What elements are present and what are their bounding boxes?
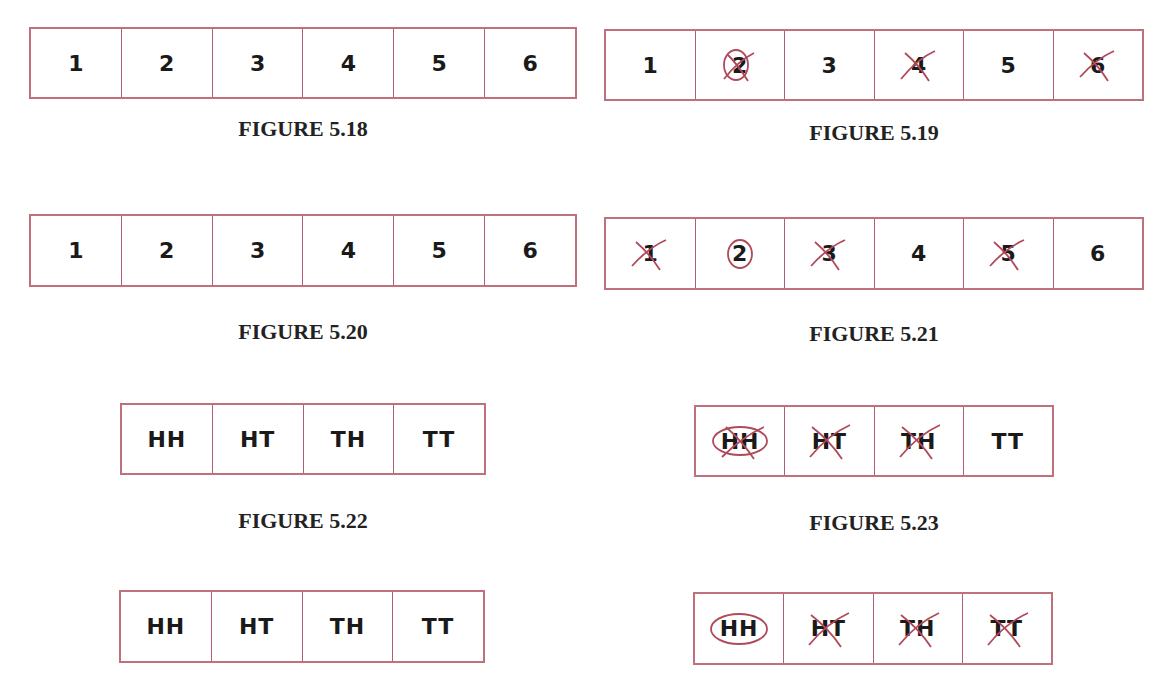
outcome-label: HT bbox=[812, 429, 847, 454]
outcome-label: 3 bbox=[250, 238, 265, 263]
outcome-cell: 3 bbox=[213, 29, 304, 97]
outcome-label: 4 bbox=[341, 51, 356, 76]
figure-5-23-grid: HH HT TH TT bbox=[694, 405, 1054, 477]
outcome-label: 1 bbox=[643, 241, 658, 266]
outcome-cell: 5 bbox=[394, 216, 485, 285]
outcome-label: 6 bbox=[522, 51, 537, 76]
outcome-cell: 2 bbox=[122, 216, 213, 285]
outcome-label: 5 bbox=[1001, 53, 1016, 78]
outcome-label: 1 bbox=[68, 51, 83, 76]
figure-caption: FIGURE 5.19 bbox=[604, 120, 1144, 146]
outcome-cell: TT bbox=[964, 407, 1052, 475]
outcome-label: TH bbox=[900, 616, 935, 641]
outcome-label: 3 bbox=[822, 241, 837, 266]
outcome-cell: 3 bbox=[785, 31, 875, 99]
outcome-cell: 6 bbox=[485, 216, 575, 285]
outcome-label: TT bbox=[423, 427, 456, 452]
outcome-label: 6 bbox=[522, 238, 537, 263]
outcome-cell: 2 bbox=[696, 219, 786, 288]
outcome-cell: TT bbox=[394, 405, 484, 473]
outcome-cell: HT bbox=[785, 407, 874, 475]
outcome-cell: 6 bbox=[485, 29, 575, 97]
outcome-cell: 4 bbox=[303, 29, 394, 97]
outcome-cell: 1 bbox=[31, 29, 122, 97]
outcome-cell: HT bbox=[784, 594, 873, 663]
outcome-label: 5 bbox=[432, 51, 447, 76]
figure-5-22-grid: HH HT TH TT bbox=[120, 403, 486, 475]
outcome-cell: HH bbox=[695, 594, 784, 663]
outcome-cell: 4 bbox=[875, 219, 965, 288]
outcome-label: 2 bbox=[159, 238, 174, 263]
outcome-label: TT bbox=[991, 616, 1024, 641]
outcome-label: 1 bbox=[643, 53, 658, 78]
outcome-label: 1 bbox=[68, 238, 83, 263]
figure-5-19-grid: 1 2 3 4 5 6 bbox=[604, 29, 1144, 101]
figure-caption: FIGURE 5.21 bbox=[604, 321, 1144, 347]
outcome-cell: TH bbox=[304, 405, 395, 473]
outcome-label: TH bbox=[330, 614, 365, 639]
outcome-label: 4 bbox=[341, 238, 356, 263]
outcome-cell: 3 bbox=[213, 216, 304, 285]
outcome-label: 2 bbox=[732, 241, 747, 266]
outcome-label: 6 bbox=[1090, 53, 1105, 78]
outcome-cell: 1 bbox=[31, 216, 122, 285]
outcome-label: 3 bbox=[822, 53, 837, 78]
outcome-cell: 3 bbox=[785, 219, 875, 288]
outcome-label: TT bbox=[992, 429, 1025, 454]
outcome-cell: 5 bbox=[394, 29, 485, 97]
figure-5-24-grid: HH HT TH TT bbox=[119, 590, 485, 663]
outcome-label: TT bbox=[422, 614, 455, 639]
outcome-label: HH bbox=[721, 429, 760, 454]
outcome-label: 3 bbox=[250, 51, 265, 76]
outcome-label: HT bbox=[239, 614, 274, 639]
figure-caption: FIGURE 5.18 bbox=[29, 116, 577, 142]
outcome-label: HH bbox=[147, 427, 186, 452]
outcome-cell: 6 bbox=[1054, 219, 1143, 288]
figure-5-20-grid: 1 2 3 4 5 6 bbox=[29, 214, 577, 287]
outcome-label: HH bbox=[146, 614, 185, 639]
outcome-label: 4 bbox=[911, 53, 926, 78]
outcome-cell: HH bbox=[121, 592, 212, 661]
outcome-label: 4 bbox=[911, 241, 926, 266]
outcome-label: HH bbox=[720, 616, 759, 641]
outcome-cell: TH bbox=[303, 592, 394, 661]
outcome-label: 6 bbox=[1090, 241, 1105, 266]
outcome-label: 5 bbox=[432, 238, 447, 263]
outcome-cell: HH bbox=[696, 407, 785, 475]
figure-caption: FIGURE 5.20 bbox=[29, 319, 577, 345]
figure-caption: FIGURE 5.23 bbox=[694, 510, 1054, 536]
outcome-cell: HT bbox=[212, 592, 303, 661]
outcome-cell: 6 bbox=[1054, 31, 1143, 99]
outcome-label: 2 bbox=[732, 53, 747, 78]
outcome-label: 5 bbox=[1001, 241, 1016, 266]
figure-5-21-grid: 1 2 3 4 5 6 bbox=[604, 217, 1144, 290]
outcome-label: HT bbox=[811, 616, 846, 641]
outcome-cell: 2 bbox=[122, 29, 213, 97]
outcome-label: HT bbox=[240, 427, 275, 452]
outcome-cell: 1 bbox=[606, 219, 696, 288]
outcome-cell: 4 bbox=[875, 31, 965, 99]
outcome-cell: 5 bbox=[964, 219, 1054, 288]
outcome-cell: 5 bbox=[964, 31, 1054, 99]
outcome-cell: TH bbox=[874, 594, 963, 663]
outcome-cell: TT bbox=[393, 592, 483, 661]
figure-5-25-grid: HH HT TH TT bbox=[693, 592, 1053, 665]
outcome-cell: TH bbox=[875, 407, 964, 475]
outcome-cell: TT bbox=[963, 594, 1051, 663]
outcome-cell: HT bbox=[213, 405, 304, 473]
outcome-label: TH bbox=[331, 427, 366, 452]
figure-5-18-grid: 1 2 3 4 5 6 bbox=[29, 27, 577, 99]
outcome-cell: 2 bbox=[696, 31, 786, 99]
outcome-cell: 1 bbox=[606, 31, 696, 99]
outcome-cell: 4 bbox=[303, 216, 394, 285]
outcome-label: 2 bbox=[159, 51, 174, 76]
outcome-label: TH bbox=[901, 429, 936, 454]
outcome-cell: HH bbox=[122, 405, 213, 473]
figure-caption: FIGURE 5.22 bbox=[120, 508, 486, 534]
